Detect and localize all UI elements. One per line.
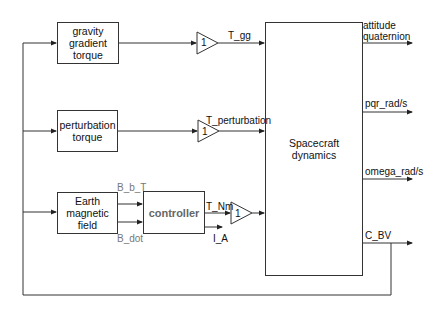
- signal-t-perturbation: T_perturbation: [206, 115, 271, 126]
- earth-magnetic-field-block[interactable]: Earth magnetic field: [57, 192, 118, 234]
- output-c-bv: C_BV: [365, 230, 391, 241]
- controller-block[interactable]: controller: [143, 191, 205, 234]
- gain-value-3: 1: [235, 208, 241, 219]
- gain-value-2: 1: [202, 126, 208, 137]
- output-omega-rad-s: omega_rad/s: [365, 166, 423, 177]
- signal-i-a: I_A: [213, 233, 228, 244]
- signal-b-b-t: B_b_T: [117, 182, 146, 193]
- gravity-gradient-torque-block[interactable]: gravity gradient torque: [57, 22, 119, 64]
- gain-value-1: 1: [201, 37, 207, 48]
- perturbation-torque-block[interactable]: perturbation torque: [57, 110, 118, 152]
- output-attitude-quaternion: attitude quaternion: [363, 20, 410, 42]
- signal-t-nm: T_Nm: [206, 201, 233, 212]
- signal-t-gg: T_gg: [228, 30, 251, 41]
- output-pqr-rad-s: pqr_rad/s: [365, 98, 407, 109]
- spacecraft-dynamics-block[interactable]: Spacecraft dynamics: [265, 22, 363, 276]
- signal-b-dot: B_dot: [117, 233, 143, 244]
